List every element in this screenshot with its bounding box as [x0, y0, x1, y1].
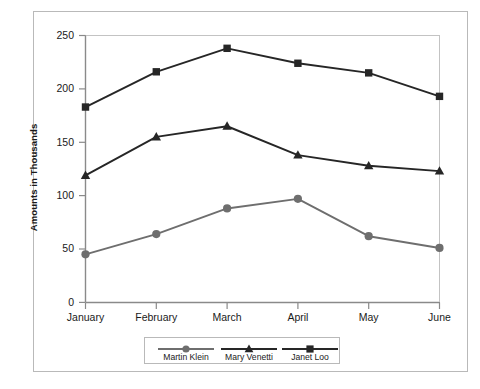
y-tick-label-250: 250	[36, 29, 74, 41]
marker-triangle	[222, 121, 231, 129]
marker-square	[436, 93, 443, 100]
chart-legend: Martin Klein Mary Venetti Janet Loo	[144, 337, 340, 364]
legend-entry-janet-loo[interactable]: Janet Loo	[278, 339, 342, 364]
chart-figure: Amounts in Thousands 250 200 150 100 50 …	[0, 0, 480, 389]
series-janet-loo	[82, 45, 443, 111]
series-line	[86, 126, 440, 175]
y-tick-label-0: 0	[36, 296, 74, 308]
legend-label-janet-loo: Janet Loo	[272, 352, 348, 362]
y-tick-label-50: 50	[36, 242, 74, 254]
marker-circle	[365, 232, 373, 240]
x-tick-marks	[86, 303, 440, 310]
series-martin-klein	[81, 195, 443, 259]
y-tick-label-200: 200	[36, 82, 74, 94]
marker-square	[153, 68, 160, 75]
marker-circle	[223, 204, 231, 212]
y-axis-title: Amounts in Thousands	[28, 98, 39, 258]
series-line	[86, 199, 440, 255]
marker-circle	[294, 195, 302, 203]
marker-square	[365, 69, 372, 76]
marker-circle	[435, 244, 443, 252]
y-tick-marks	[79, 36, 86, 303]
marker-circle	[81, 250, 89, 258]
marker-square	[294, 60, 301, 67]
y-tick-label-150: 150	[36, 136, 74, 148]
series-mary-venetti	[81, 121, 444, 179]
plot-axes	[86, 35, 441, 303]
y-tick-label-100: 100	[36, 189, 74, 201]
series-line	[86, 48, 440, 107]
legend-entry-martin-klein[interactable]: Martin Klein	[154, 339, 218, 364]
marker-square	[82, 103, 89, 110]
marker-square	[223, 45, 230, 52]
x-tick-label-june: June	[395, 311, 480, 323]
marker-triangle	[81, 170, 90, 178]
marker-circle	[152, 230, 160, 238]
data-series-layer	[81, 45, 444, 259]
